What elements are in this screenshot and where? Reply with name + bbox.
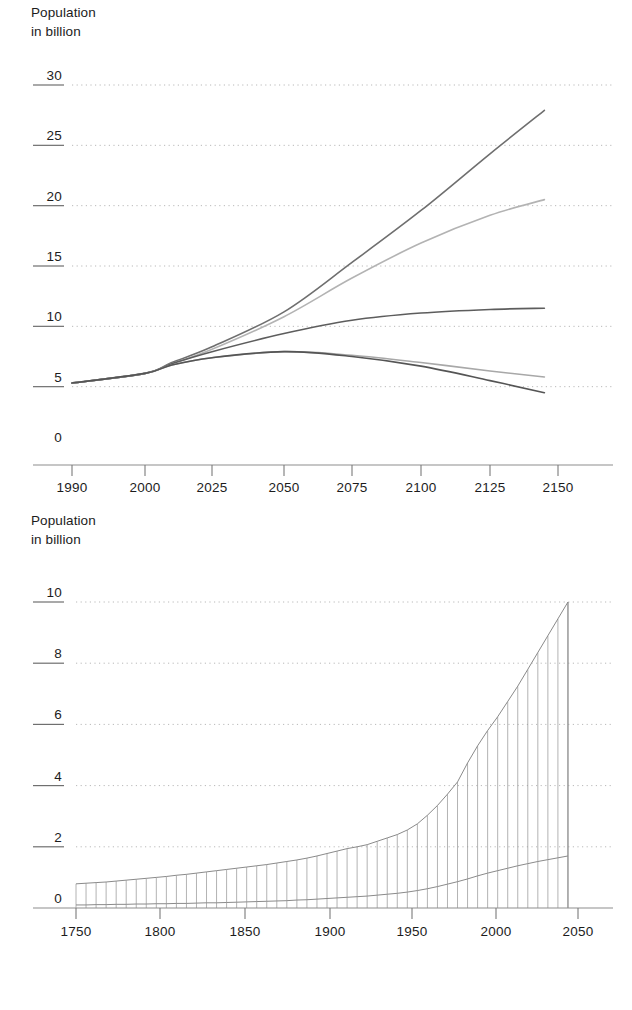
series-line-high-medium-variant <box>72 200 544 383</box>
series-line-medium-variant <box>72 308 544 383</box>
x-tick-label-1900: 1900 <box>315 924 346 939</box>
y-tick-label-25: 25 <box>47 128 62 143</box>
series-line-low-variant <box>72 352 544 393</box>
series-line-low-medium-variant <box>72 352 544 383</box>
x-tick-label-1950: 1950 <box>397 924 428 939</box>
bottom-chart-axis-title-line1: Population <box>31 513 96 528</box>
x-tick-label-1850: 1850 <box>230 924 261 939</box>
top-chart-axis-title-line2: in billion <box>31 24 81 39</box>
x-tick-label-2125: 2125 <box>475 480 506 495</box>
y-tick-label-15: 15 <box>47 249 62 264</box>
x-tick-label-2050: 2050 <box>269 480 300 495</box>
x-tick-label-2150: 2150 <box>543 480 574 495</box>
series-line-high-variant <box>72 110 544 383</box>
y-tick-label-4: 4 <box>54 769 62 784</box>
page-root: Populationin billion 0510152025301990200… <box>0 0 632 1010</box>
lower-band-outline <box>76 856 568 905</box>
bottom-chart-svg: 02468101750180018501900195020002050 <box>0 508 632 978</box>
x-tick-label-1800: 1800 <box>145 924 176 939</box>
bar-group <box>76 602 568 908</box>
top-chart-svg: 0510152025301990200020252050207521002125… <box>0 0 632 500</box>
y-tick-label-10: 10 <box>47 309 62 324</box>
y-tick-label-6: 6 <box>54 707 62 722</box>
x-tick-label-2075: 2075 <box>337 480 368 495</box>
total-population-outline <box>76 602 568 884</box>
y-tick-label-30: 30 <box>47 68 62 83</box>
top-chart-axis-title-line1: Population <box>31 5 96 20</box>
population-projection-chart: Populationin billion 0510152025301990200… <box>0 0 632 500</box>
x-tick-label-2000: 2000 <box>130 480 161 495</box>
y-tick-label-5: 5 <box>54 370 62 385</box>
y-tick-label-2: 2 <box>54 830 62 845</box>
bottom-chart-axis-title-line2: in billion <box>31 532 81 547</box>
x-tick-label-1990: 1990 <box>57 480 88 495</box>
y-tick-label-8: 8 <box>54 646 62 661</box>
x-tick-label-2025: 2025 <box>197 480 228 495</box>
x-tick-label-1750: 1750 <box>61 924 92 939</box>
y-tick-label-20: 20 <box>47 189 62 204</box>
x-tick-label-2050: 2050 <box>563 924 594 939</box>
historical-population-chart: Populationin billion 0246810175018001850… <box>0 508 632 978</box>
top-chart-axis-title: Populationin billion <box>31 3 96 41</box>
x-tick-label-2000: 2000 <box>481 924 512 939</box>
y-tick-label-0: 0 <box>54 430 62 445</box>
y-tick-label-10: 10 <box>47 585 62 600</box>
x-tick-label-2100: 2100 <box>406 480 437 495</box>
y-tick-label-0: 0 <box>54 891 62 906</box>
bottom-chart-axis-title: Populationin billion <box>31 511 96 549</box>
